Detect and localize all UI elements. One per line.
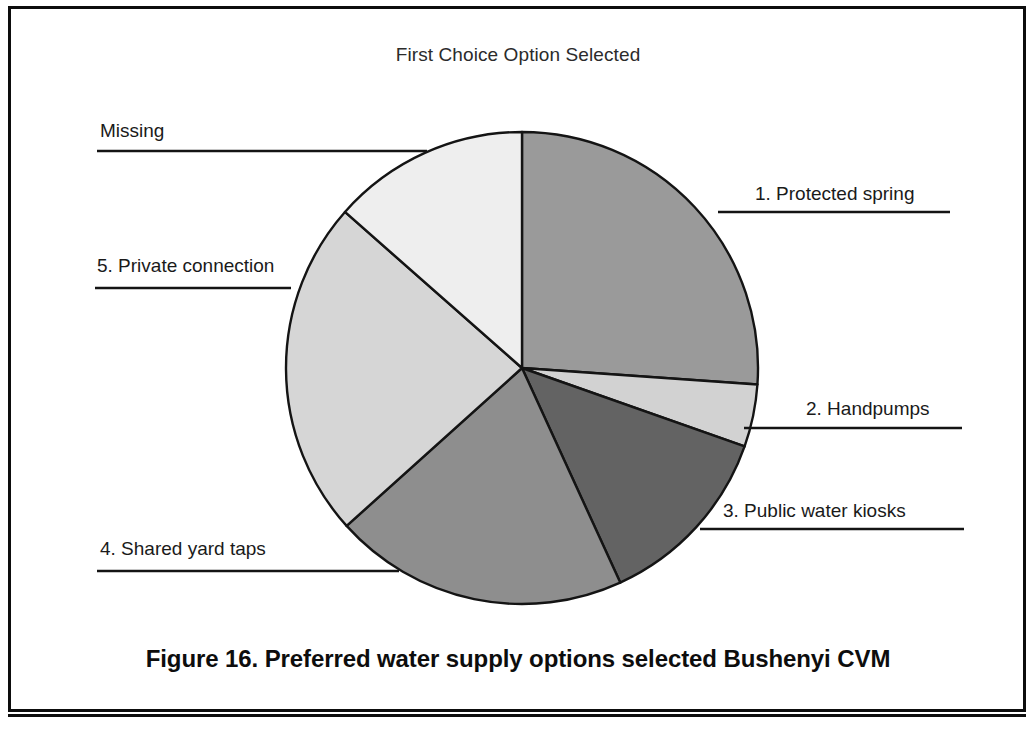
callout-label: 1. Protected spring: [755, 183, 914, 205]
callout-label: 3. Public water kiosks: [723, 500, 906, 522]
pie-slice[interactable]: [522, 132, 758, 384]
figure-page: First Choice Option Selected 1. Protecte…: [0, 0, 1036, 730]
callout-label: 2. Handpumps: [806, 398, 930, 420]
callout-label: 4. Shared yard taps: [100, 538, 266, 560]
figure-caption: Figure 16. Preferred water supply option…: [0, 645, 1036, 673]
pie-slice-group: [286, 132, 758, 604]
callout-label: Missing: [100, 120, 164, 142]
pie-chart: [0, 0, 1036, 730]
callout-label: 5. Private connection: [97, 255, 274, 277]
pie-chart-canvas: [0, 0, 1036, 730]
